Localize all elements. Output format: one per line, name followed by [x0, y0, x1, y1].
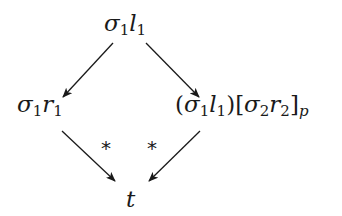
- node-top-sub2: 1: [137, 21, 147, 39]
- arrow-top-to-right: [146, 43, 199, 97]
- node-right-sub2: 1: [217, 102, 227, 120]
- node-right-l: l: [209, 91, 216, 117]
- arrow-top-to-left: [63, 43, 113, 97]
- edge-label-left-star: *: [101, 138, 111, 158]
- node-bottom-t: t: [126, 186, 135, 212]
- node-right: (σ1l1)[σ2r2]p: [175, 93, 309, 116]
- node-top-sub1: 1: [120, 21, 130, 39]
- node-right-close-paren: ): [226, 91, 235, 117]
- node-right-sub4: 2: [280, 102, 290, 120]
- node-right-sigma2: σ: [244, 91, 260, 117]
- node-right-sub1: 1: [200, 102, 210, 120]
- node-left-sigma: σ: [17, 91, 33, 117]
- node-right-r: r: [269, 91, 280, 117]
- edge-label-right-star: *: [147, 138, 157, 158]
- node-right-sub3: 2: [260, 102, 270, 120]
- node-right-open-bracket: [: [235, 91, 244, 117]
- node-left-r: r: [42, 91, 53, 117]
- node-top-l: l: [129, 10, 136, 36]
- node-right-open-paren: (: [175, 91, 184, 117]
- node-left: σ1r1: [17, 93, 63, 116]
- node-bottom: t: [126, 188, 135, 211]
- node-left-sub1: 1: [33, 102, 43, 120]
- diagram-canvas: σ1l1 σ1r1 (σ1l1)[σ2r2]p t * *: [0, 0, 342, 216]
- node-right-close-bracket: ]: [290, 91, 299, 117]
- node-top: σ1l1: [104, 12, 146, 35]
- node-top-sigma: σ: [104, 10, 120, 36]
- node-right-sigma1: σ: [184, 91, 200, 117]
- node-left-sub2: 1: [53, 102, 63, 120]
- node-right-sub-p: p: [299, 102, 309, 120]
